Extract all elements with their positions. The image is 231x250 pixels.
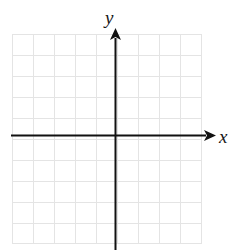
coordinate-grid-figure: y x bbox=[0, 0, 231, 250]
coordinate-plane-svg bbox=[0, 0, 231, 250]
grid-horizontal-lines bbox=[12, 35, 201, 244]
y-axis-label: y bbox=[105, 8, 113, 27]
x-axis-label: x bbox=[219, 127, 227, 146]
grid-lines bbox=[12, 34, 202, 244]
